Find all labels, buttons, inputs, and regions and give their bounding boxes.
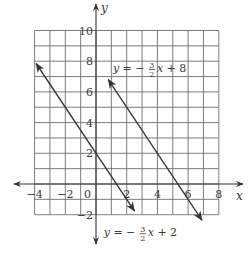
x-tick-label: 8 [215, 188, 222, 201]
equation-rhs: x + 8 [157, 62, 186, 75]
coordinate-plane: xy −4−202468−2246810 y = −32x + 8y = −32… [0, 0, 252, 256]
x-tick-label: −4 [26, 188, 42, 201]
equation-labels: y = −32x + 8y = −32x + 2 [103, 61, 187, 243]
x-tick-label: 0 [84, 188, 91, 201]
y-tick-label: 8 [86, 55, 93, 68]
equation-label-2: y = −32x + 2 [103, 225, 177, 243]
y-tick-label: 2 [86, 147, 93, 160]
fraction-denominator: 2 [149, 70, 154, 79]
fraction-numerator: 3 [140, 225, 145, 234]
x-tick-label: 4 [154, 188, 161, 201]
x-axis-label: x [236, 189, 243, 203]
y-tick-label: 10 [79, 25, 93, 38]
fraction-numerator: 3 [149, 61, 154, 70]
y-tick-label: 6 [86, 86, 93, 99]
equation-lhs: y = − [103, 226, 136, 239]
equation-rhs: x + 2 [148, 226, 177, 239]
fraction-denominator: 2 [140, 234, 145, 243]
equation-lhs: y = − [112, 62, 145, 75]
y-tick-label: 4 [86, 117, 93, 130]
tick-labels: −4−202468−2246810 [26, 25, 222, 222]
x-tick-label: −2 [57, 188, 73, 201]
y-tick-label: −2 [77, 209, 93, 222]
y-axis-label: y [100, 1, 108, 15]
